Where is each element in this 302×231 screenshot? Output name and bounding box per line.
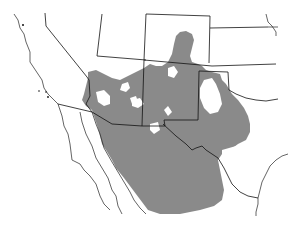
island xyxy=(47,96,49,98)
range-map xyxy=(0,0,302,231)
tamaulipas-coast xyxy=(256,198,258,216)
nv-ut-border xyxy=(97,14,102,56)
ut-az-border xyxy=(97,56,146,60)
island xyxy=(38,90,40,92)
california-coast xyxy=(14,14,58,104)
map-canvas xyxy=(0,0,302,231)
texas-gulf-coast xyxy=(258,154,288,198)
island xyxy=(22,24,24,26)
missouri-river xyxy=(266,14,276,36)
ca-nv-border xyxy=(45,13,89,80)
island xyxy=(45,91,47,93)
range-polygon xyxy=(82,31,250,214)
islands xyxy=(22,24,49,98)
ks-ne-border xyxy=(210,27,268,28)
distribution-range xyxy=(82,31,252,214)
